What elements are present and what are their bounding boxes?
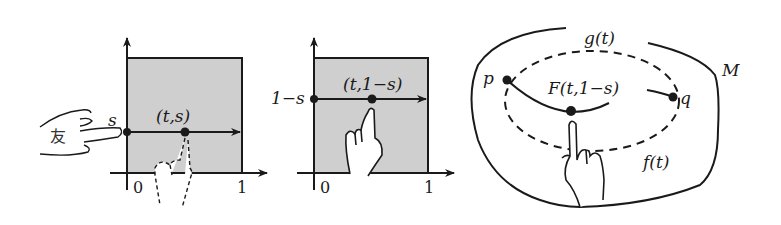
start-dot xyxy=(123,128,131,136)
start-point-label: p xyxy=(483,68,494,88)
start-dot xyxy=(310,95,318,103)
point-p xyxy=(503,76,512,85)
hand-glyph: 友 xyxy=(50,127,66,146)
point-label: (t,1−s) xyxy=(343,74,402,94)
homotopy-diagram: s (t,s) 0 1 友 1−s (t,1−s) 0 1 xyxy=(0,0,781,225)
point-label: (t,s) xyxy=(156,106,190,126)
point-dot xyxy=(368,95,377,104)
point-F xyxy=(566,106,576,116)
y-label: 1−s xyxy=(271,88,305,108)
end-point-label: q xyxy=(680,88,691,108)
y-label: s xyxy=(108,110,117,130)
panel-left: s (t,s) 0 1 友 xyxy=(40,38,267,208)
panel-right: g(t) M f(t) p q F(t,1−s) xyxy=(472,28,741,207)
outer-label: g(t) xyxy=(584,28,615,48)
panel-middle: 1−s (t,1−s) 0 1 xyxy=(271,38,454,197)
x-tick-0: 0 xyxy=(320,178,330,197)
manifold-label: M xyxy=(721,60,740,80)
inner-curve-f xyxy=(505,51,679,151)
x-tick-1: 1 xyxy=(237,178,247,197)
point-dot xyxy=(181,128,190,137)
point-q xyxy=(669,93,678,102)
homotopy-label: F(t,1−s) xyxy=(547,78,619,98)
x-tick-0: 0 xyxy=(133,178,143,197)
x-tick-1: 1 xyxy=(424,178,434,197)
pointing-hand-icon xyxy=(562,121,604,207)
inner-label: f(t) xyxy=(641,152,669,172)
